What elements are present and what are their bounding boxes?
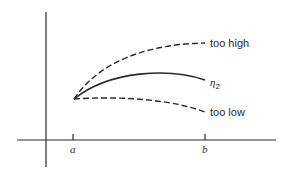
tick-label-a: a: [70, 143, 76, 155]
curve-too-low: [74, 98, 205, 112]
label-eta2: η2: [210, 76, 220, 91]
label-too-high: too high: [210, 37, 249, 49]
diagram-canvas: a b too high η2 too low: [0, 0, 291, 169]
label-eta2-subscript: 2: [215, 82, 220, 91]
tick-label-b: b: [202, 143, 208, 155]
label-too-low: too low: [210, 106, 245, 118]
curve-too-high: [74, 43, 205, 99]
